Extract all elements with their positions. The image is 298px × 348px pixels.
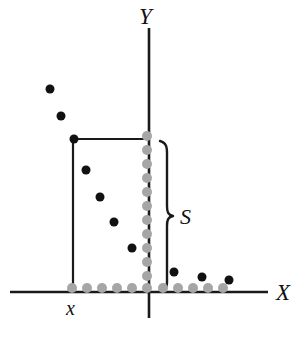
- data-point: [110, 218, 119, 227]
- x-threshold-label: x: [65, 297, 75, 319]
- data-point: [142, 243, 152, 253]
- data-point: [82, 283, 92, 293]
- data-point: [97, 283, 107, 293]
- data-point: [128, 244, 137, 253]
- data-point: [225, 276, 234, 285]
- rectangle-region-outline: [73, 139, 148, 292]
- data-point: [142, 159, 152, 169]
- data-point: [218, 283, 228, 293]
- diagram-canvas: Y X x S: [0, 0, 298, 348]
- data-point: [203, 283, 213, 293]
- data-point: [57, 112, 66, 121]
- black-points-outside-left-group: [46, 85, 66, 121]
- data-point: [142, 145, 152, 155]
- data-point: [67, 283, 77, 293]
- y-axis-label: Y: [139, 4, 154, 29]
- data-point: [142, 229, 152, 239]
- scatter-diagram-figure: Y X x S: [0, 0, 298, 348]
- data-point: [173, 283, 183, 293]
- data-point: [142, 187, 152, 197]
- data-point: [142, 215, 152, 225]
- data-point: [142, 283, 152, 293]
- data-point: [158, 283, 168, 293]
- region-s-label: S: [180, 204, 191, 229]
- data-point: [96, 193, 105, 202]
- data-point: [142, 201, 152, 211]
- data-point: [142, 257, 152, 267]
- data-point: [142, 271, 152, 281]
- data-point: [188, 283, 198, 293]
- data-point: [170, 268, 179, 277]
- data-point: [112, 283, 122, 293]
- black-points-inside-rect-group: [70, 135, 137, 253]
- data-point: [70, 135, 79, 144]
- data-point: [198, 273, 207, 282]
- black-points-right-of-axis-group: [170, 268, 234, 285]
- data-point: [142, 131, 152, 141]
- gray-points-y-column-group: [142, 131, 152, 281]
- data-point: [142, 173, 152, 183]
- curly-brace-s: [160, 141, 173, 291]
- x-axis-label: X: [275, 280, 291, 305]
- data-point: [46, 85, 55, 94]
- data-point: [82, 166, 91, 175]
- data-point: [127, 283, 137, 293]
